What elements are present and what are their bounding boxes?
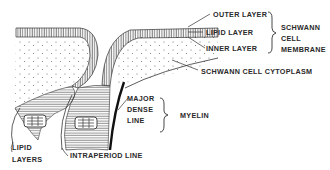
major-dense-line	[110, 82, 124, 150]
myelin-brace	[160, 98, 168, 132]
outer-layer-pointer	[188, 14, 210, 27]
myelin-label: MYELIN	[180, 111, 209, 120]
major-dense-label-1: MAJOR	[127, 94, 155, 103]
lipid-layers-label-1: LIPID	[12, 143, 32, 152]
lipid-layers-label-2: LAYERS	[12, 155, 42, 164]
inner-layer-label: INNER LAYER	[206, 44, 258, 53]
intraperiod-label: INTRAPERIOD LINE	[70, 151, 143, 160]
major-dense-label-3: LINE	[127, 116, 145, 125]
lipid-glyph-left	[24, 115, 46, 127]
myelin-diagram: OUTER LAYER LIPID LAYER INNER LAYER SCHW…	[0, 0, 330, 170]
schwann-membrane-label-3: MEMBRANE	[281, 45, 326, 54]
schwann-membrane-label-2: CELL	[281, 34, 301, 43]
lipid-glyph-middle	[75, 117, 97, 129]
lipid-layer-label: LIPID LAYER	[206, 28, 254, 37]
cytoplasm-label: SCHWANN CELL CYTOPLASM	[201, 67, 312, 76]
schwann-membrane-label-1: SCHWANN	[281, 23, 320, 32]
schwann-membrane-brace	[268, 12, 276, 53]
outer-layer-label: OUTER LAYER	[213, 10, 268, 19]
major-dense-label-2: DENSE	[127, 105, 153, 114]
